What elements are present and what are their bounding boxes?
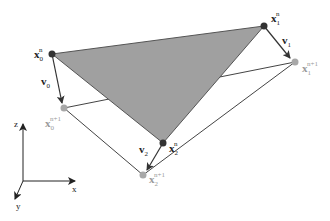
axis-y-arrow [15, 181, 23, 199]
axis-x-label: x [72, 184, 77, 194]
node-x2n1 [140, 172, 147, 179]
node-x1n [261, 23, 268, 30]
label-v2: v2 [139, 143, 149, 158]
node-x1n1 [292, 59, 299, 66]
label-v1: v1 [282, 34, 292, 49]
label-v0: v0 [41, 75, 51, 90]
current-triangle [52, 26, 264, 143]
triangle-motion-diagram: x0n x1n x2n x0n+1 x1n+1 x2n+1 v0 v1 v2 z… [0, 0, 330, 221]
coordinate-axes: z x y [14, 119, 77, 211]
label-x1n1: x1n+1 [302, 60, 318, 77]
label-x2n1: x2n+1 [149, 171, 165, 188]
label-x0n1: x0n+1 [45, 115, 61, 132]
axis-y-label: y [16, 201, 21, 211]
label-x1n: x1n [271, 10, 281, 27]
node-x0n [49, 51, 56, 58]
node-x0n1 [61, 105, 68, 112]
axis-z-label: z [14, 119, 18, 129]
label-x0n: x0n [34, 46, 44, 63]
node-x2n [160, 140, 167, 147]
